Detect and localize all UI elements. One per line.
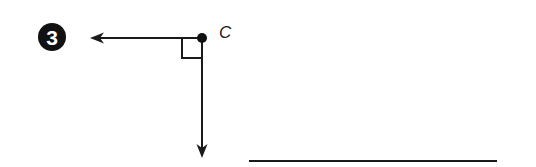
ray-left xyxy=(90,33,202,44)
ray-down xyxy=(197,38,208,158)
diagram-canvas: 3 C xyxy=(0,0,536,167)
problem-number: 3 xyxy=(46,26,58,49)
problem-number-badge: 3 xyxy=(38,23,66,51)
point-label-c: C xyxy=(219,23,232,42)
vertex-point xyxy=(197,33,207,43)
